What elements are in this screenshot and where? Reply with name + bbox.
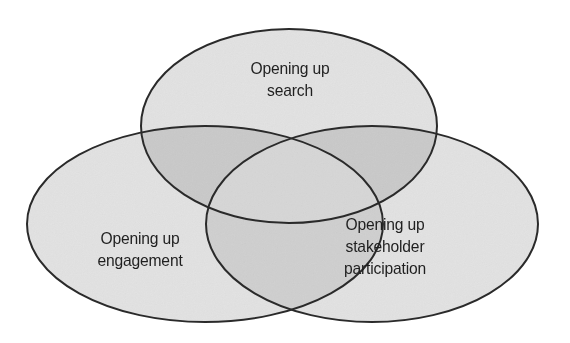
set-label-engagement-line2: engagement	[43, 250, 236, 272]
set-label-stakeholder-line2: stakeholder	[293, 236, 477, 258]
venn-diagram-canvas	[0, 0, 570, 343]
set-label-search: Opening up search	[198, 58, 382, 102]
venn-diagram: Opening up search Opening up engagement …	[0, 0, 570, 343]
set-label-engagement-line1: Opening up	[43, 228, 236, 250]
set-label-search-line1: Opening up	[198, 58, 382, 80]
set-label-engagement: Opening up engagement	[43, 228, 236, 272]
set-label-stakeholder-line3: participation	[293, 258, 477, 280]
set-label-stakeholder-participation: Opening up stakeholder participation	[293, 214, 477, 279]
set-label-search-line2: search	[198, 80, 382, 102]
set-label-stakeholder-line1: Opening up	[293, 214, 477, 236]
